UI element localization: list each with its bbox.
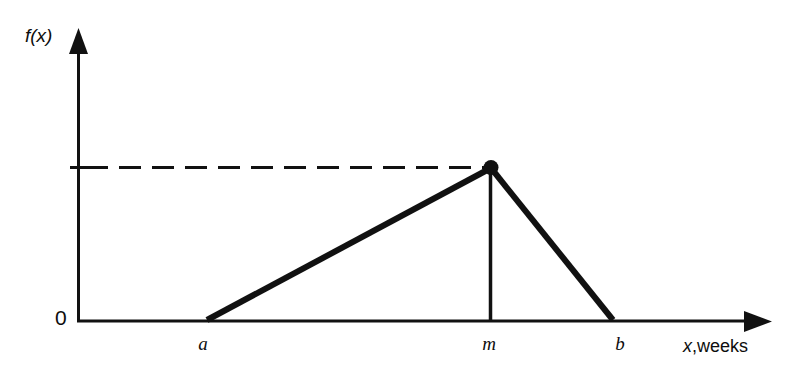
x-axis-label-variable: x bbox=[683, 336, 692, 356]
density-falling-edge bbox=[491, 168, 613, 320]
x-tick-label-a: a bbox=[198, 334, 208, 353]
x-tick-label-m: m bbox=[482, 334, 496, 353]
x-axis-label: x,weeks bbox=[683, 337, 748, 355]
density-rising-edge bbox=[207, 168, 491, 320]
peak-marker bbox=[484, 160, 499, 175]
x-axis-label-unit: ,weeks bbox=[692, 336, 748, 356]
y-axis-origin-label: 0 bbox=[55, 307, 67, 328]
triangular-distribution-figure: f(x) 0 x,weeks a m b bbox=[0, 0, 809, 370]
y-axis-label: f(x) bbox=[25, 26, 52, 45]
x-tick-label-b: b bbox=[615, 334, 625, 353]
y-axis bbox=[69, 28, 88, 321]
plot-canvas bbox=[0, 0, 809, 370]
x-axis bbox=[77, 311, 772, 332]
